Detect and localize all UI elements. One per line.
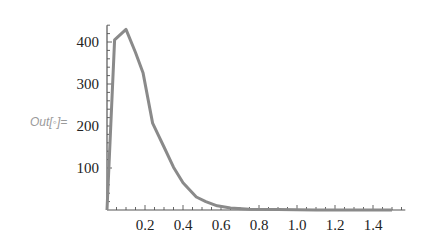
y-tick-label: 400 xyxy=(77,34,100,50)
x-tick-label: 1.0 xyxy=(288,217,307,233)
x-tick-label: 0.4 xyxy=(174,217,193,233)
line-chart: 0.20.40.60.81.01.21.4100200300400 xyxy=(0,0,422,239)
x-tick-label: 0.2 xyxy=(136,217,155,233)
y-tick-label: 300 xyxy=(77,76,100,92)
y-tick-label: 200 xyxy=(77,118,100,134)
x-tick-label: 0.6 xyxy=(212,217,231,233)
y-tick-label: 100 xyxy=(77,160,100,176)
x-tick-label: 0.8 xyxy=(250,217,269,233)
x-tick-label: 1.4 xyxy=(364,217,383,233)
x-tick-label: 1.2 xyxy=(326,217,345,233)
data-series-line xyxy=(107,29,392,210)
